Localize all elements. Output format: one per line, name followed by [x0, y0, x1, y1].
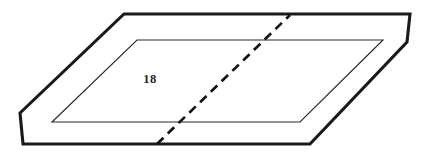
line-drawing-canvas: 18: [0, 0, 433, 156]
part-number-label: 18: [143, 72, 156, 86]
figure-root: 18: [0, 0, 433, 156]
